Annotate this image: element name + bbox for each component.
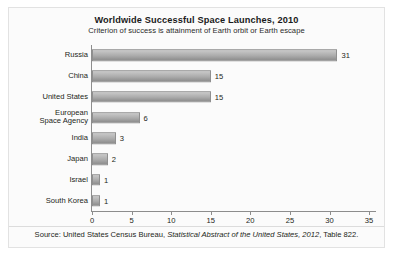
source-divider [9, 226, 384, 227]
bar-value-label: 3 [120, 134, 124, 143]
x-tick [250, 211, 251, 215]
bar-row: India3 [9, 128, 384, 149]
bar-fill [92, 174, 100, 186]
x-tick-label: 0 [90, 216, 94, 225]
bar-fill [92, 50, 337, 62]
bar-row: Japan2 [9, 149, 384, 170]
bar-value-label: 1 [104, 196, 108, 205]
bar-row: Israel1 [9, 170, 384, 191]
x-tick-label: 20 [246, 216, 254, 225]
category-label: Japan [0, 155, 88, 164]
bar-row: United States15 [9, 87, 384, 108]
bar-fill [92, 112, 140, 124]
chart-header: Worldwide Successful Space Launches, 201… [9, 8, 384, 36]
x-tick-label: 10 [167, 216, 175, 225]
bar-value-label: 2 [112, 155, 116, 164]
category-label: South Korea [0, 196, 88, 205]
x-tick [211, 211, 212, 215]
x-axis-line [91, 211, 376, 212]
x-tick-label: 15 [207, 216, 215, 225]
bar [92, 153, 108, 165]
chart-title: Worldwide Successful Space Launches, 201… [9, 15, 384, 26]
bar-fill [92, 153, 108, 165]
bar-value-label: 31 [341, 51, 349, 60]
source-prefix: Source: United States Census Bureau, [35, 230, 168, 239]
chart-subtitle: Criterion of success is attainment of Ea… [9, 26, 384, 36]
bar-fill [92, 195, 100, 207]
chart-figure: Worldwide Successful Space Launches, 201… [8, 7, 385, 248]
x-tick [92, 211, 93, 215]
x-tick-label: 35 [365, 216, 373, 225]
category-label: European Space Agency [0, 109, 88, 126]
bar [92, 50, 337, 62]
x-tick [330, 211, 331, 215]
category-label: United States [0, 93, 88, 102]
bar-value-label: 15 [215, 92, 223, 101]
x-tick [171, 211, 172, 215]
x-tick-label: 30 [325, 216, 333, 225]
bar [92, 70, 211, 82]
bar-row: China15 [9, 66, 384, 87]
source-note: Source: United States Census Bureau, Sta… [9, 230, 384, 240]
bar-value-label: 6 [144, 113, 148, 122]
bar [92, 112, 140, 124]
source-title: Statistical Abstract of the United State… [167, 230, 319, 239]
x-tick [369, 211, 370, 215]
x-tick [290, 211, 291, 215]
bar [92, 133, 116, 145]
bar-row: Russia31 [9, 45, 384, 66]
bar-fill [92, 133, 116, 145]
category-label: China [0, 72, 88, 81]
bar-fill [92, 70, 211, 82]
plot-area: Russia31China15United States15European S… [9, 41, 384, 221]
x-tick-label: 25 [286, 216, 294, 225]
x-tick-label: 5 [129, 216, 133, 225]
x-tick [132, 211, 133, 215]
category-label: India [0, 134, 88, 143]
bar-row: South Korea1 [9, 190, 384, 211]
source-suffix: , Table 822. [319, 230, 358, 239]
bar [92, 195, 100, 207]
bar-fill [92, 91, 211, 103]
category-label: Israel [0, 176, 88, 185]
bar [92, 174, 100, 186]
bar [92, 91, 211, 103]
bar-row: European Space Agency6 [9, 107, 384, 128]
category-label: Russia [0, 51, 88, 60]
bar-value-label: 15 [215, 72, 223, 81]
bar-value-label: 1 [104, 175, 108, 184]
